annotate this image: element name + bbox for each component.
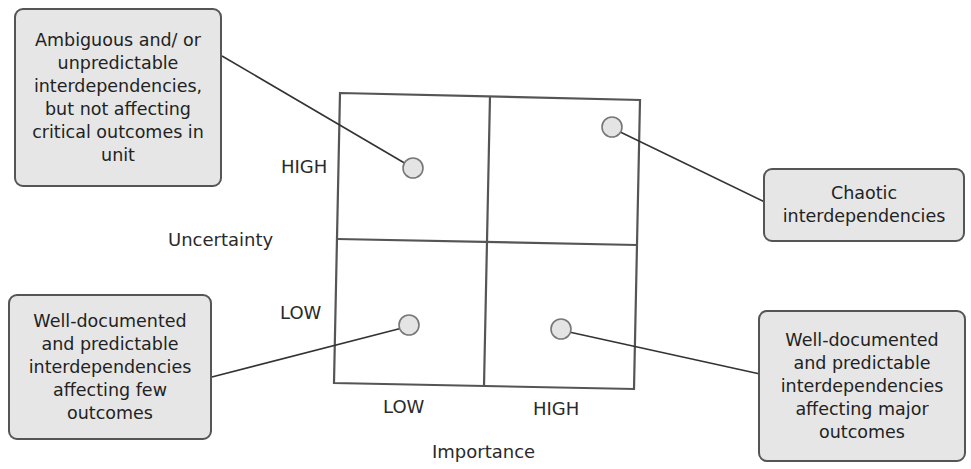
marker-bottom-right [551,319,571,339]
marker-top-left [403,158,423,178]
callout-bottom-right: Well-documented and predictable interdep… [758,310,966,462]
callout-top-right: Chaotic interdependencies [763,168,965,242]
leader-line-bottom-left [208,326,410,378]
marker-bottom-left [399,315,419,335]
callout-top-left: Ambiguous and/ or unpredictable interdep… [14,8,222,187]
callout-bottom-left: Well-documented and predictable interdep… [8,294,212,440]
x-axis-title: Importance [432,441,535,462]
x-tick-high: HIGH [533,398,579,419]
x-tick-low: LOW [383,396,424,417]
leader-line-top-left [222,56,413,168]
callout-top-left-text: Ambiguous and/ or unpredictable interdep… [24,29,212,167]
marker-top-right [602,117,622,137]
y-axis-title: Uncertainty [168,229,273,250]
callout-bottom-left-text: Well-documented and predictable interdep… [18,310,202,425]
leader-line-bottom-right [560,330,760,374]
y-tick-low: LOW [280,302,321,323]
callout-top-right-text: Chaotic interdependencies [773,182,955,228]
leader-line-top-right [612,128,765,202]
y-tick-high: HIGH [281,156,327,177]
callout-bottom-right-text: Well-documented and predictable interdep… [768,329,956,444]
